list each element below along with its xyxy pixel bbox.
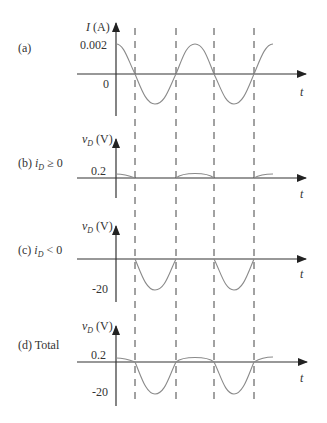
panel-a-tick-zero: 0	[103, 77, 109, 91]
panel-a-current: (a) I (A) 0.002 0 t	[18, 20, 306, 116]
panel-d-tick-pos: 0.2	[91, 348, 106, 362]
panel-d-tick-neg: -20	[92, 385, 108, 399]
panel-c-t-label: t	[300, 267, 304, 281]
panel-b-t-label: t	[300, 187, 304, 201]
diode-waveform-figure: (a) I (A) 0.002 0 t (b) iD ≥ 0 vD (V) 0.…	[0, 0, 327, 423]
panel-b-tick: 0.2	[91, 164, 106, 178]
panel-c-reverse-voltage: (c) iD < 0 vD (V) -20 t	[18, 219, 306, 302]
dashed-time-markers	[135, 28, 254, 402]
panel-a-tag: (a)	[18, 41, 31, 55]
panel-a-y-label: I (A)	[85, 20, 110, 34]
panel-c-tag: (c) iD < 0	[18, 243, 62, 259]
panel-c-tick: -20	[92, 282, 108, 296]
panel-c-voltage-curve	[135, 259, 254, 290]
panel-a-tick-max: 0.002	[80, 38, 107, 52]
panel-b-y-label: vD (V)	[82, 132, 113, 148]
panel-d-tag: (d) Total	[18, 338, 60, 352]
panel-b-voltage-curve	[116, 174, 273, 179]
panel-a-t-label: t	[300, 85, 304, 99]
panel-b-tag: (b) iD ≥ 0	[18, 156, 63, 172]
panel-b-forward-voltage: (b) iD ≥ 0 vD (V) 0.2 t	[18, 132, 306, 201]
panel-d-y-label: vD (V)	[82, 319, 113, 335]
panel-c-y-label: vD (V)	[82, 219, 113, 235]
panel-d-total-voltage: (d) Total vD (V) 0.2 -20 t	[18, 319, 307, 406]
panel-d-t-label: t	[300, 371, 304, 385]
